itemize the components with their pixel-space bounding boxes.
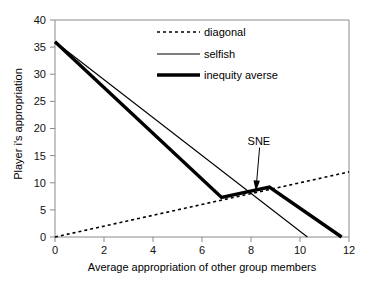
x-tick-label-0: 0 [41,244,69,256]
x-tick-label-10: 10 [286,244,314,256]
x-tick-label-2: 2 [90,244,118,256]
legend-label-diagonal: diagonal [204,26,246,38]
legend-label-inequity-averse: inequity averse [204,69,278,81]
y-axis-title-wrap: Player i's appropriation [0,0,20,240]
x-tick-marks [55,237,349,242]
series-diagonal [55,172,349,237]
y-tick-label-40: 40 [18,14,46,26]
legend-samples [157,32,200,75]
x-axis-title: Average appropriation of other group mem… [55,261,349,273]
y-tick-label-0: 0 [18,231,46,243]
sne-annotation-label: SNE [248,135,271,147]
y-axis-title: Player i's appropriation [12,44,24,204]
x-tick-label-4: 4 [139,244,167,256]
chart-figure: 0 5 10 15 20 25 30 35 40 0 2 4 6 8 10 12… [0,0,369,287]
y-tick-label-5: 5 [18,204,46,216]
x-tick-label-12: 12 [335,244,363,256]
x-tick-label-6: 6 [188,244,216,256]
x-tick-label-8: 8 [237,244,265,256]
series-inequity-averse [55,42,342,237]
y-tick-marks [50,20,55,237]
sne-arrow [254,148,260,192]
legend-label-selfish: selfish [204,48,235,60]
